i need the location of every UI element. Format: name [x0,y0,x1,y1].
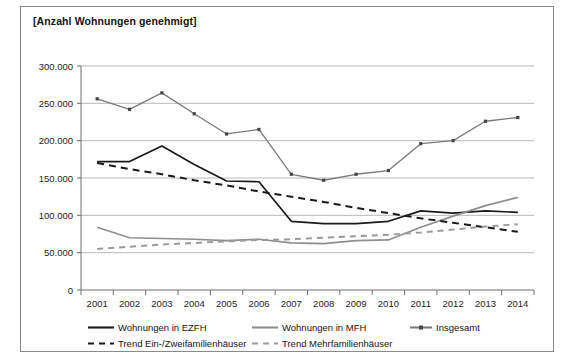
data-point-marker [516,116,519,119]
legend-item: Trend Ein-/Zweifamilienhäuser [88,338,246,349]
x-axis-label: 2012 [443,298,464,309]
data-point-marker [96,97,99,100]
data-point-marker [484,120,487,123]
data-point-marker [193,112,196,115]
y-axis-label: 250.000 [39,98,73,109]
legend-label: Trend Ein-/Zweifamilienhäuser [118,338,246,349]
data-point-marker [128,108,131,111]
x-axis-label: 2005 [216,298,237,309]
x-axis-label: 2002 [119,298,140,309]
legend-marker-icon [419,326,423,330]
data-point-marker [290,173,293,176]
legend-item: Trend Mehrfamilienhäuser [252,338,393,349]
x-axis-label: 2006 [248,298,269,309]
y-axis-label: 0 [68,285,73,296]
data-point-marker [322,179,325,182]
legend-item: Wohnungen in MFH [252,322,366,333]
y-axis-label: 100.000 [39,210,73,221]
series-line-2 [97,93,518,180]
line-chart: 300.000250.000200.000150.000100.00050.00… [20,6,554,352]
data-point-marker [419,142,422,145]
series-line-4 [97,224,518,249]
y-axis-label: 50.000 [44,247,73,258]
legend-item: Insgesamt [410,322,480,333]
y-axis-label: 300.000 [39,61,73,72]
series-line-1 [97,197,518,243]
series-line-3 [97,163,518,232]
legend-label: Insgesamt [436,322,480,333]
data-point-marker [225,132,228,135]
data-point-marker [160,91,163,94]
x-axis-label: 2013 [475,298,496,309]
legend-item: Wohnungen in EZFH [88,322,207,333]
x-axis-label: 2011 [411,298,431,309]
legend-label: Wohnungen in EZFH [118,322,207,333]
y-axis-label: 150.000 [39,173,73,184]
legend-label: Wohnungen in MFH [282,322,366,333]
x-axis-label: 2004 [184,298,205,309]
x-axis-label: 2010 [378,298,399,309]
x-axis-label: 2007 [281,298,302,309]
series-line-0 [97,146,518,224]
x-axis-label: 2001 [87,298,108,309]
legend-label: Trend Mehrfamilienhäuser [282,338,393,349]
y-axis-label: 200.000 [39,135,73,146]
x-axis-label: 2008 [313,298,334,309]
x-axis-label: 2014 [507,298,528,309]
data-point-marker [452,139,455,142]
data-point-marker [387,169,390,172]
x-axis-label: 2009 [345,298,366,309]
x-axis-label: 2003 [151,298,172,309]
chart-plot-area: 300.000250.000200.000150.000100.00050.00… [20,6,554,352]
data-point-marker [257,128,260,131]
data-point-marker [354,173,357,176]
